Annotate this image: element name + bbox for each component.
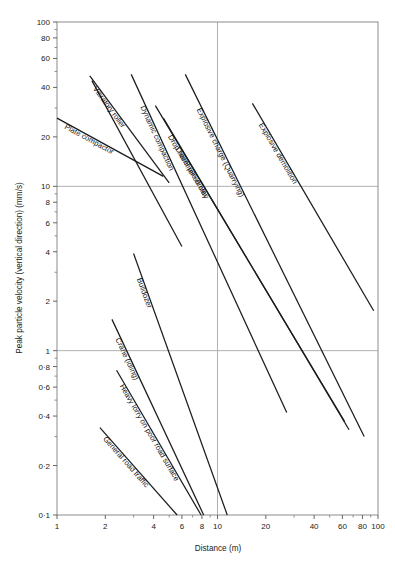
y-tick-label: 8 xyxy=(46,198,51,207)
y-tick-label: 0·1 xyxy=(38,511,50,520)
y-tick-label: 0·6 xyxy=(38,383,50,392)
x-tick-label: 80 xyxy=(358,522,367,531)
y-tick-label: 40 xyxy=(41,83,50,92)
x-tick-label: 4 xyxy=(151,522,156,531)
x-tick-label: 8 xyxy=(200,522,205,531)
x-tick-label: 20 xyxy=(261,522,270,531)
x-tick-label: 60 xyxy=(338,522,347,531)
y-tick-label: 4 xyxy=(46,248,51,257)
y-tick-label: 80 xyxy=(41,34,50,43)
x-tick-label: 40 xyxy=(310,522,319,531)
series-label: Diesel pile-driver xyxy=(174,145,211,199)
y-tick-label: 0·4 xyxy=(38,412,50,421)
y-tick-label: 20 xyxy=(41,133,50,142)
series-label: Vibratory roller xyxy=(91,85,128,130)
y-tick-label: 10 xyxy=(41,182,50,191)
series-label: Explosive demolition xyxy=(257,121,300,185)
x-tick-label: 2 xyxy=(103,522,108,531)
y-tick-label: 6 xyxy=(46,219,51,228)
chart-canvas: 124681020406080100 1008060402010864210·8… xyxy=(0,0,395,570)
y-tick-labels-group: 1008060402010864210·80·60·40·20·1 xyxy=(37,18,51,520)
y-tick-label: 100 xyxy=(37,18,51,27)
x-tick-labels-group: 124681020406080100 xyxy=(55,522,385,531)
y-tick-label: 0·2 xyxy=(38,462,50,471)
x-tick-label: 100 xyxy=(371,522,385,531)
y-axis-title: Peak particle velocity (vertical directi… xyxy=(15,182,24,354)
series-label: Crane (idling) xyxy=(113,336,141,382)
y-tick-label: 1 xyxy=(46,347,51,356)
series-label: Plate compactor xyxy=(63,122,116,156)
chart-container: 124681020406080100 1008060402010864210·8… xyxy=(0,0,395,570)
y-tick-label: 60 xyxy=(41,54,50,63)
x-tick-label: 10 xyxy=(213,522,222,531)
series-label: Bulldozer xyxy=(135,277,154,310)
y-tick-label: 2 xyxy=(46,297,51,306)
x-axis-title: Distance (m) xyxy=(195,544,242,553)
x-tick-label: 1 xyxy=(55,522,60,531)
y-tick-label: 0·8 xyxy=(38,363,50,372)
series-label: General road traffic xyxy=(101,435,151,490)
x-tick-label: 6 xyxy=(180,522,185,531)
